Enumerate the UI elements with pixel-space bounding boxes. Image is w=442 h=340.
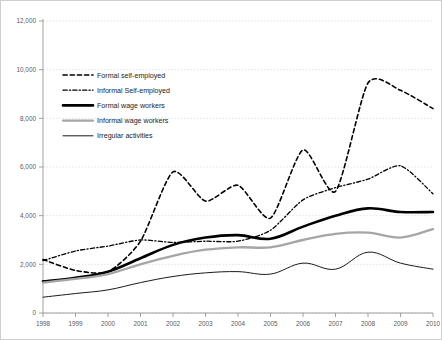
x-axis-tick-label: 2005 [263, 320, 278, 327]
y-axis-tick-label: 4,000 [20, 212, 36, 219]
chart-canvas: 02,0004,0006,0008,00010,00012,0001998199… [1, 1, 442, 340]
chart-figure: 02,0004,0006,0008,00010,00012,0001998199… [0, 0, 442, 340]
y-axis-tick-label: 12,000 [16, 17, 36, 24]
legend-label-0: Formal self-employed [97, 72, 165, 80]
x-axis-tick-label: 2001 [133, 320, 148, 327]
x-axis-tick-label: 2003 [198, 320, 213, 327]
y-axis-tick-label: 10,000 [16, 66, 36, 73]
x-axis-tick-label: 2002 [166, 320, 181, 327]
x-axis-tick-label: 2007 [328, 320, 343, 327]
legend-label-2: Formal wage workers [97, 102, 165, 110]
x-axis-tick-label: 2010 [426, 320, 441, 327]
x-axis-tick-label: 2008 [361, 320, 376, 327]
x-axis-tick-label: 2000 [101, 320, 116, 327]
series-line-2 [43, 208, 433, 281]
legend-label-1: Informal Self-employed [97, 87, 170, 95]
x-axis-tick-label: 2004 [231, 320, 246, 327]
y-axis-tick-label: 0 [32, 309, 36, 316]
line-chart: 02,0004,0006,0008,00010,00012,0001998199… [1, 1, 442, 340]
y-axis-tick-label: 6,000 [20, 163, 36, 170]
y-axis-tick-label: 8,000 [20, 115, 36, 122]
y-axis-tick-label: 2,000 [20, 261, 36, 268]
x-axis-tick-label: 1998 [36, 320, 51, 327]
x-axis-tick-label: 2009 [393, 320, 408, 327]
x-axis-tick-label: 2006 [296, 320, 311, 327]
legend-label-4: Irregular activities [97, 132, 153, 140]
x-axis-tick-label: 1999 [68, 320, 83, 327]
series-line-3 [43, 229, 433, 283]
legend-label-3: Informal wage workers [97, 117, 169, 125]
